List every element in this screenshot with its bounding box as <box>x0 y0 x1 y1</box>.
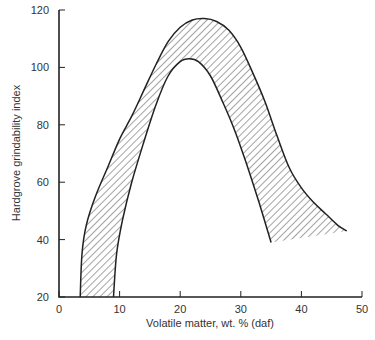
y-tick-label: 40 <box>37 234 49 246</box>
x-tick-label: 30 <box>235 303 247 315</box>
hatched-region <box>80 19 347 297</box>
y-axis-title: Hardgrove grindability index <box>10 84 22 221</box>
y-tick-label: 20 <box>37 291 49 303</box>
x-tick-label: 40 <box>295 303 307 315</box>
x-tick-label: 50 <box>356 303 368 315</box>
chart: 2040608010012001020304050 Volatile matte… <box>0 0 375 340</box>
x-tick-label: 10 <box>113 303 125 315</box>
hatched-band <box>80 19 347 297</box>
y-tick-label: 60 <box>37 176 49 188</box>
y-tick-label: 100 <box>31 61 49 73</box>
x-tick-label: 0 <box>56 303 62 315</box>
x-axis-title: Volatile matter, wt. % (daf) <box>146 317 274 329</box>
y-tick-label: 80 <box>37 119 49 131</box>
x-tick-label: 20 <box>174 303 186 315</box>
y-tick-label: 120 <box>31 4 49 16</box>
